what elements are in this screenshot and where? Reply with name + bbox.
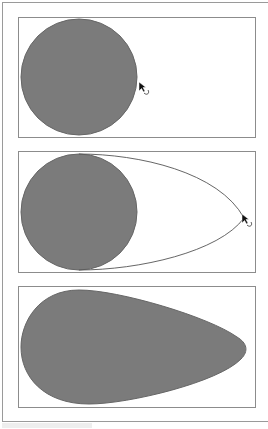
- circle-drag-preview: [19, 152, 257, 274]
- panel-step-3: [18, 286, 256, 408]
- drag-cursor-icon: [139, 82, 149, 94]
- circle-shape: [19, 18, 257, 139]
- teardrop-shape: [19, 287, 257, 409]
- caption-strip: [2, 423, 92, 428]
- drag-cursor-icon: [242, 214, 252, 226]
- panel-step-1: [18, 17, 256, 138]
- panel-step-2: [18, 151, 256, 273]
